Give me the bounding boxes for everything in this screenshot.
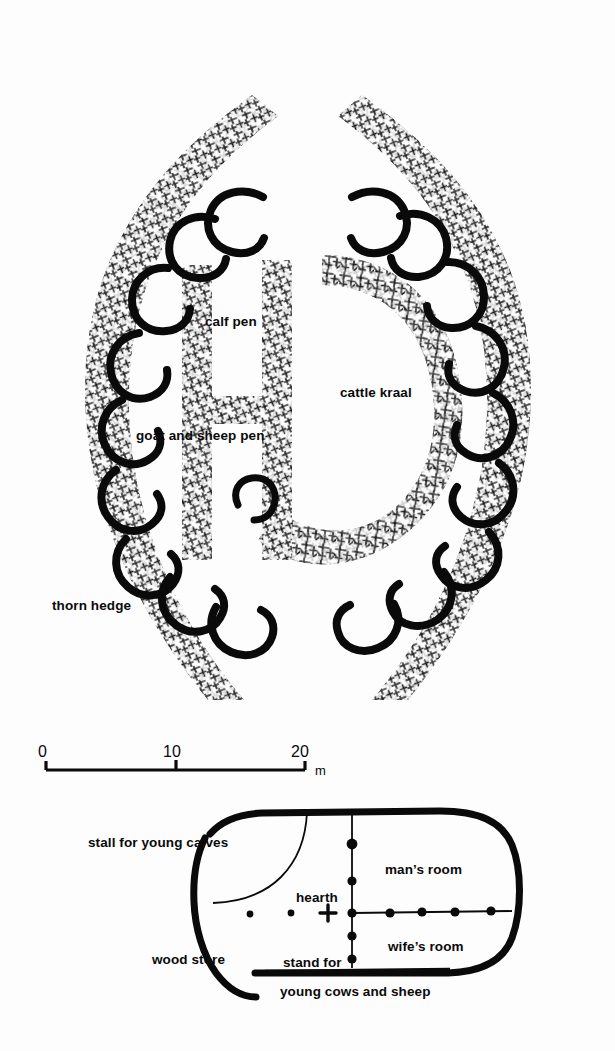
scale-label-10: 10 [163, 743, 181, 760]
scale-label-20: 20 [291, 743, 309, 760]
figure-canvas: calf pen cattle kraal goat and sheep pen… [0, 0, 615, 1051]
scale-unit-label: m [315, 763, 326, 778]
post [450, 907, 459, 916]
post [385, 908, 394, 917]
label-calf-pen: calf pen [205, 314, 257, 329]
label-young-cows-and-sheep: young cows and sheep [280, 984, 431, 999]
label-wood-store: wood store [151, 952, 225, 967]
label-cattle-kraal: cattle kraal [340, 385, 412, 400]
post [347, 908, 356, 917]
post [347, 876, 356, 885]
label-thorn-hedge: thorn hedge [52, 598, 131, 613]
scale-label-0: 0 [38, 743, 47, 760]
post [347, 839, 358, 850]
label-stand-for: stand for [283, 955, 342, 970]
label-goat-and-sheep-pen: goat and sheep pen [136, 428, 265, 443]
stand-wall [265, 970, 450, 972]
label-hearth: hearth [296, 890, 338, 905]
label-stall-for-young-calves: stall for young calves [88, 835, 228, 850]
post [347, 931, 356, 940]
post [417, 907, 426, 916]
post [486, 906, 495, 915]
post [288, 910, 295, 917]
post [347, 954, 356, 963]
label-mans-room: man’s room [385, 862, 462, 877]
label-wifes-room: wife’s room [387, 939, 464, 954]
post [247, 911, 254, 918]
